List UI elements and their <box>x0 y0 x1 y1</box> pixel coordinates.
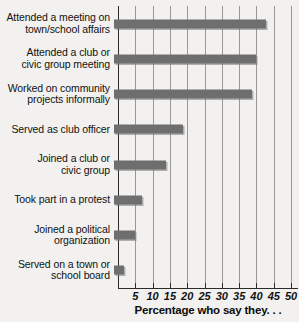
bar <box>114 266 124 275</box>
tick-mark <box>153 283 154 289</box>
bar <box>114 195 142 204</box>
category-label: Served on a town or school board <box>0 259 114 282</box>
tick-mark <box>274 283 275 289</box>
bar-row: Took part in a protest <box>0 182 299 217</box>
bar-row: Worked on community projects informally <box>0 77 299 112</box>
bar-row: Attended a meeting on town/school affair… <box>0 6 299 41</box>
bar-cell <box>114 182 299 217</box>
bar <box>114 54 256 63</box>
category-label: Attended a club or civic group meeting <box>0 47 114 70</box>
bar-cell <box>114 41 299 76</box>
tick-mark <box>256 283 257 289</box>
bar-cell <box>114 6 299 41</box>
tick-mark <box>239 283 240 289</box>
x-axis-ticks <box>118 283 298 289</box>
bar <box>114 90 252 99</box>
bar-rows: Attended a meeting on town/school affair… <box>0 6 299 288</box>
bar <box>114 160 166 169</box>
tick-mark <box>135 283 136 289</box>
x-axis-tick-labels: 5101520253035404550 <box>0 290 299 304</box>
bar-row: Joined a club or civic group <box>0 147 299 182</box>
bar-row: Served as club officer <box>0 112 299 147</box>
bar-cell <box>114 147 299 182</box>
category-label: Took part in a protest <box>0 194 114 206</box>
tick-mark <box>222 283 223 289</box>
tick-mark <box>291 283 292 289</box>
bar-row: Joined a political organization <box>0 218 299 253</box>
bar-chart: Attended a meeting on town/school affair… <box>0 0 299 322</box>
bar <box>114 231 135 240</box>
bar-cell <box>114 218 299 253</box>
tick-label: 40 <box>250 290 262 302</box>
tick-mark <box>205 283 206 289</box>
tick-label: 45 <box>268 290 280 302</box>
tick-label: 15 <box>164 290 176 302</box>
tick-label: 20 <box>181 290 193 302</box>
bar <box>114 125 183 134</box>
tick-label: 10 <box>146 290 158 302</box>
tick-mark <box>170 283 171 289</box>
category-label: Joined a club or civic group <box>0 153 114 176</box>
bar <box>114 19 266 28</box>
tick-label: 5 <box>132 290 138 302</box>
bar-cell <box>114 112 299 147</box>
category-label: Attended a meeting on town/school affair… <box>0 12 114 35</box>
tick-label: 35 <box>233 290 245 302</box>
category-label: Joined a political organization <box>0 224 114 247</box>
bar-row: Attended a club or civic group meeting <box>0 41 299 76</box>
category-label: Worked on community projects informally <box>0 83 114 106</box>
bar-cell <box>114 77 299 112</box>
tick-label: 25 <box>198 290 210 302</box>
category-label: Served as club officer <box>0 124 114 136</box>
x-axis-title: Percentage who say they. . . <box>118 304 298 316</box>
tick-label: 30 <box>216 290 228 302</box>
tick-mark <box>187 283 188 289</box>
tick-label: 50 <box>285 290 297 302</box>
